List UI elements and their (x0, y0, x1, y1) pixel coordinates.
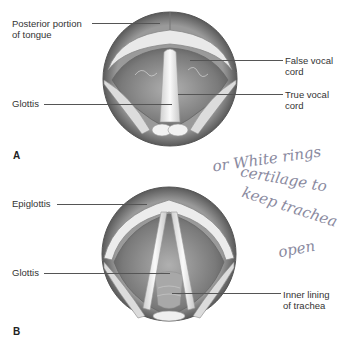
label-posterior-tongue: Posterior portion of tongue (12, 18, 82, 40)
label-glottis-a: Glottis (12, 98, 39, 109)
leader-glottis-a (44, 104, 172, 105)
leader-false-vocal-cord (190, 60, 283, 61)
leader-inner-lining (172, 293, 281, 294)
label-false-vocal-cord: False vocal cord (285, 55, 333, 77)
label-inner-lining-trachea: Inner lining of trachea (283, 289, 329, 311)
leader-posterior-tongue (92, 23, 160, 24)
panel-label-b: B (13, 326, 20, 337)
label-epiglottis: Epiglottis (12, 198, 51, 209)
label-glottis-b: Glottis (12, 267, 39, 278)
leader-glottis-b (44, 273, 170, 274)
panel-label-a: A (13, 150, 20, 161)
leader-true-vocal-cord (178, 94, 283, 95)
leader-epiglottis (57, 204, 147, 205)
larynx-view-a (103, 12, 237, 146)
larynx-view-b (102, 187, 236, 321)
label-true-vocal-cord: True vocal cord (285, 89, 329, 111)
